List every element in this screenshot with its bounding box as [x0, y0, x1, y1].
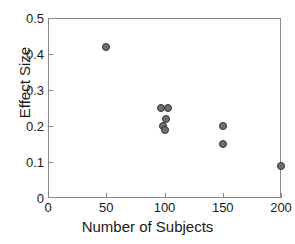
x-tick-label: 50	[99, 200, 113, 215]
y-axis-label: Effect Size	[16, 13, 33, 153]
y-tick-mark	[48, 54, 53, 55]
x-tick-mark	[281, 193, 282, 198]
x-tick-label: 150	[212, 200, 234, 215]
data-point	[161, 126, 169, 134]
data-point	[277, 162, 285, 170]
y-tick-label: 0.1	[26, 155, 44, 170]
x-axis-tick-labels: 050100150200	[48, 198, 281, 218]
x-axis-label: Number of Subjects	[0, 218, 295, 235]
y-tick-label: 0	[37, 191, 44, 206]
y-tick-mark	[48, 162, 53, 163]
data-point	[164, 104, 172, 112]
y-tick-mark	[48, 126, 53, 127]
x-tick-label: 100	[154, 200, 176, 215]
x-tick-label: 0	[44, 200, 51, 215]
data-point	[219, 122, 227, 130]
data-point	[219, 140, 227, 148]
x-tick-label: 200	[270, 200, 292, 215]
scatter-plot-figure: 050100150200 00.10.20.30.40.5 Number of …	[0, 0, 295, 244]
y-tick-mark	[48, 90, 53, 91]
